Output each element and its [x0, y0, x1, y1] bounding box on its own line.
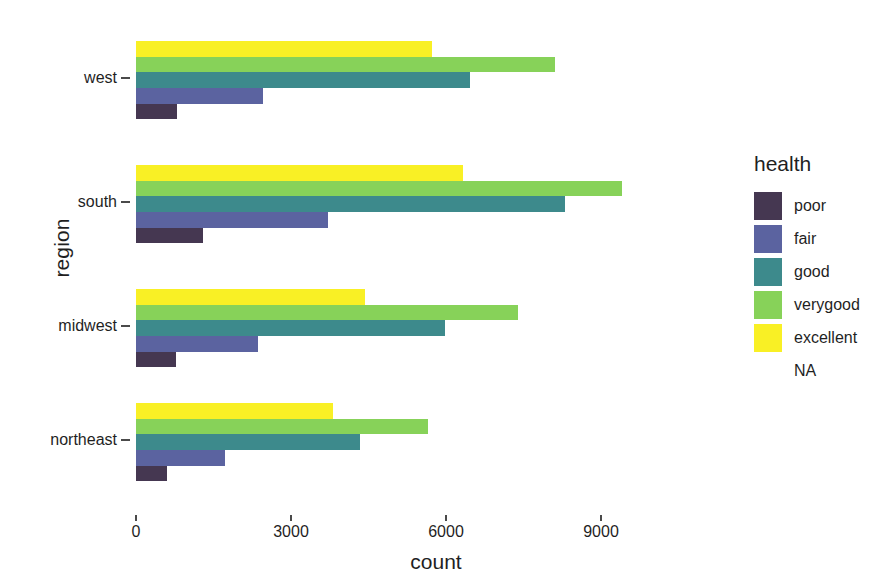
bar-midwest-excellent — [136, 289, 365, 305]
legend-item-excellent: excellent — [754, 321, 872, 354]
y-axis-tick-label: midwest — [58, 317, 117, 334]
bar-northeast-excellent — [136, 403, 333, 419]
bar-south-excellent — [136, 165, 463, 181]
legend-label-fair: fair — [794, 230, 816, 248]
x-axis-tick-label: 9000 — [561, 523, 641, 541]
bar-group-west — [136, 41, 736, 120]
y-axis-tick-label: south — [78, 193, 117, 210]
legend-label-verygood: verygood — [794, 296, 860, 314]
legend-swatch-NA — [754, 357, 782, 385]
bar-midwest-poor — [136, 352, 176, 368]
bar-northeast-fair — [136, 450, 225, 466]
bar-south-poor — [136, 228, 203, 244]
bar-south-verygood — [136, 181, 622, 197]
legend-title: health — [754, 152, 872, 176]
legend-item-verygood: verygood — [754, 288, 872, 321]
bar-group-northeast — [136, 403, 736, 482]
legend-item-NA: NA — [754, 354, 872, 387]
y-axis-tick-mark — [121, 439, 130, 441]
y-axis-tick-mark — [121, 325, 130, 327]
bar-midwest-verygood — [136, 305, 518, 321]
x-axis-tick-mark — [290, 515, 292, 521]
y-axis-tick-midwest: midwest — [0, 317, 130, 335]
legend-label-good: good — [794, 263, 830, 281]
bar-midwest-good — [136, 320, 445, 336]
legend-label-NA: NA — [794, 362, 816, 380]
bar-south-good — [136, 196, 565, 212]
y-axis-tick-label: west — [84, 69, 117, 86]
y-axis-tick-label: northeast — [50, 431, 117, 448]
legend-swatch-fair — [754, 225, 782, 253]
legend: health poorfairgoodverygoodexcellentNA — [754, 152, 872, 387]
y-axis-tick-south: south — [0, 193, 130, 211]
bar-west-poor — [136, 104, 177, 120]
x-axis-tick-label: 3000 — [251, 523, 331, 541]
legend-label-excellent: excellent — [794, 329, 857, 347]
legend-swatch-poor — [754, 192, 782, 220]
x-axis-tick-mark — [135, 515, 137, 521]
y-axis-tick-mark — [121, 77, 130, 79]
x-axis-tick-mark — [600, 515, 602, 521]
bar-midwest-fair — [136, 336, 258, 352]
y-axis-tick-mark — [121, 201, 130, 203]
bar-northeast-poor — [136, 466, 167, 482]
legend-item-poor: poor — [754, 189, 872, 222]
bar-northeast-good — [136, 434, 360, 450]
legend-item-fair: fair — [754, 222, 872, 255]
x-axis-title: count — [136, 550, 736, 574]
bar-west-verygood — [136, 57, 555, 73]
x-axis-tick-mark — [445, 515, 447, 521]
plot-panel — [136, 24, 736, 514]
x-axis-tick-label: 6000 — [406, 523, 486, 541]
bar-group-south — [136, 165, 736, 244]
y-axis-tick-west: west — [0, 69, 130, 87]
bar-west-excellent — [136, 41, 432, 57]
legend-swatch-excellent — [754, 324, 782, 352]
bar-chart: region westsouthmidwestnortheast 0300060… — [0, 0, 876, 581]
legend-label-poor: poor — [794, 197, 826, 215]
bar-group-midwest — [136, 289, 736, 368]
y-axis-tick-northeast: northeast — [0, 431, 130, 449]
bar-west-fair — [136, 88, 263, 104]
bar-northeast-verygood — [136, 419, 428, 435]
legend-swatch-good — [754, 258, 782, 286]
bar-west-good — [136, 72, 470, 88]
legend-swatch-verygood — [754, 291, 782, 319]
bar-south-fair — [136, 212, 328, 228]
legend-item-good: good — [754, 255, 872, 288]
legend-items: poorfairgoodverygoodexcellentNA — [754, 189, 872, 387]
x-axis-tick-label: 0 — [96, 523, 176, 541]
